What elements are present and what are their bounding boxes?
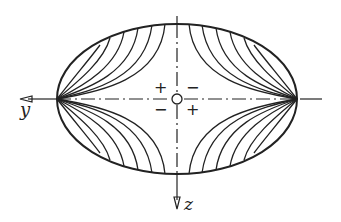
sign-lower-left: −: [154, 100, 167, 119]
sign-upper-left: +: [154, 78, 167, 97]
center-point: [172, 94, 182, 104]
ellipse-diagram: + − − + y z: [0, 0, 341, 222]
axis-label-y: y: [19, 99, 31, 120]
sign-lower-right: +: [186, 100, 199, 119]
sign-upper-right: −: [186, 78, 199, 97]
axis-label-z: z: [183, 194, 194, 214]
